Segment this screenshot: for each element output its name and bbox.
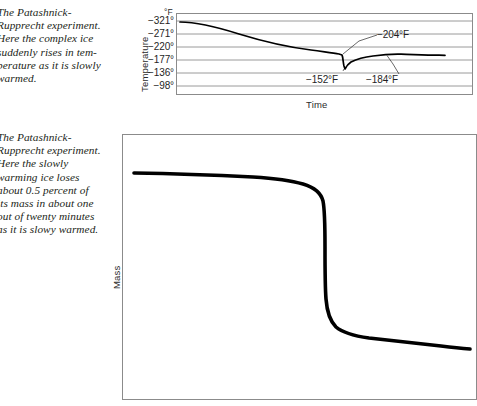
temperature-ytick-3: −177°	[130, 54, 174, 65]
temperature-ytick-0: −321°	[130, 15, 174, 26]
mass-plot-svg	[123, 135, 476, 399]
temperature-annotation-152: −152°F	[306, 74, 338, 85]
mass-plot-area	[122, 134, 477, 400]
temperature-x-axis-title: Time	[306, 99, 328, 110]
caption-temperature-figure: The Patashnick- Rupprecht experiment. He…	[0, 6, 129, 85]
temperature-ytick-5: −98°	[130, 80, 174, 91]
temperature-ytick-4: −136°	[130, 67, 174, 78]
temperature-annotation-184: −184°F	[366, 74, 398, 85]
mass-figure: Mass	[105, 130, 477, 406]
temperature-annotation-204: −204°F	[377, 29, 409, 40]
mass-y-axis-title: Mass	[111, 266, 122, 290]
temperature-figure: °F Temperature −321° −271° −220° −177° −…	[130, 4, 477, 116]
temperature-ytick-2: −220°	[130, 41, 174, 52]
temperature-ytick-1: −271°	[130, 28, 174, 39]
